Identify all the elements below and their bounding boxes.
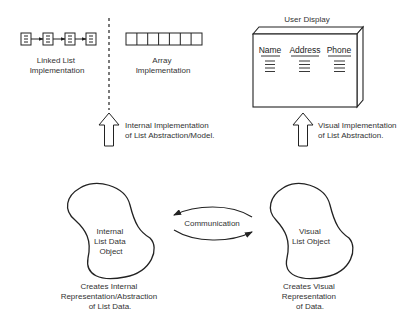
arrow-to-visual-icon — [174, 230, 252, 240]
visual-object-caption: Creates Visual Representation of Data. — [282, 282, 339, 311]
visual-implementation-caption: Visual Implementation of List Abstractio… — [318, 121, 399, 140]
user-display-box — [253, 27, 363, 107]
visual-list-object-label: Visual List Object — [292, 227, 331, 246]
up-arrow-icon — [293, 113, 313, 146]
internal-implementation-caption: Internal Implementation of List Abstract… — [125, 121, 214, 140]
linked-list-node — [43, 33, 53, 45]
communication-label: Communication — [184, 219, 240, 228]
arrow-to-internal-icon — [174, 207, 252, 217]
linked-list-icon — [21, 33, 96, 45]
user-display-title: User Display — [284, 15, 329, 24]
internal-object-caption: Creates Internal Representation/Abstract… — [61, 282, 160, 311]
linked-list-node — [21, 33, 31, 45]
column-header-address: Address — [289, 45, 320, 55]
column-header-name: Name — [259, 45, 282, 55]
up-arrow-icon — [99, 113, 119, 146]
linked-list-caption: Linked List Implementation — [30, 56, 85, 75]
list-abstraction-diagram: Linked List Implementation Array Impleme… — [0, 0, 412, 327]
column-header-phone: Phone — [327, 45, 352, 55]
linked-list-node — [86, 33, 96, 45]
array-icon — [126, 33, 202, 45]
internal-list-data-object-label: Internal List Data Object — [94, 227, 128, 256]
array-caption: Array Implementation — [136, 56, 191, 75]
linked-list-node — [65, 33, 75, 45]
